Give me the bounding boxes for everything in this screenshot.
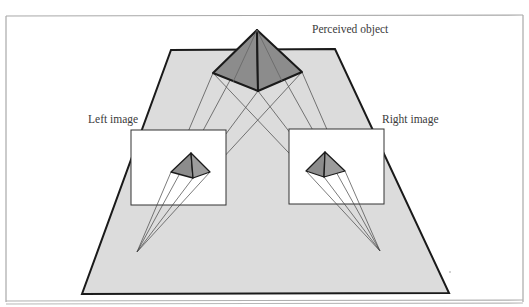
stray-dot (449, 271, 451, 273)
right-image-label: Right image (382, 113, 439, 126)
perceived-object-label: Perceived object (312, 23, 389, 36)
stereo-vision-diagram: Perceived object Left image Right image (0, 0, 529, 307)
left-image-label: Left image (88, 113, 138, 126)
